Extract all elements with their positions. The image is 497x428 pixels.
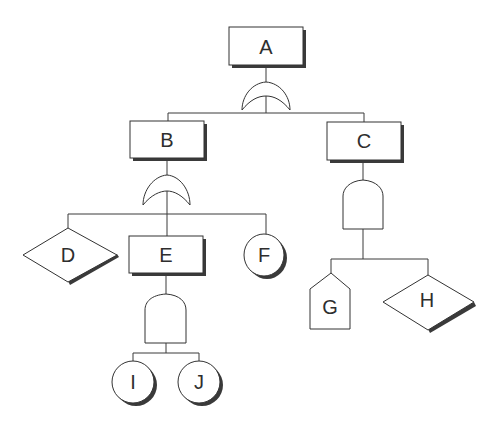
event-d: D xyxy=(23,228,119,285)
event-c: C xyxy=(327,122,404,163)
event-f-label: F xyxy=(258,244,270,266)
event-b-label: B xyxy=(160,129,173,151)
event-b: B xyxy=(130,121,207,161)
event-c-label: C xyxy=(357,130,371,152)
event-e-label: E xyxy=(159,244,172,266)
event-i: I xyxy=(112,361,157,406)
fault-tree-diagram: A B C D E xyxy=(0,0,497,428)
event-h-label: H xyxy=(420,289,434,311)
event-d-label: D xyxy=(61,244,75,266)
event-f: F xyxy=(244,234,287,279)
event-g-label: G xyxy=(322,296,338,318)
event-h: H xyxy=(383,275,476,333)
event-g: G xyxy=(310,273,350,329)
event-a-label: A xyxy=(259,36,273,58)
and-gate-icon xyxy=(343,180,383,229)
and-gate-icon xyxy=(145,294,186,343)
event-j: J xyxy=(178,361,223,406)
event-e: E xyxy=(129,236,206,276)
event-i-label: I xyxy=(130,371,136,393)
event-a: A xyxy=(229,27,306,68)
event-j-label: J xyxy=(194,371,204,393)
